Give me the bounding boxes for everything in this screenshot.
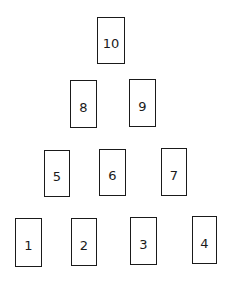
box-label: 9: [138, 100, 146, 113]
box-4: 4: [192, 216, 217, 264]
box-7: 7: [161, 148, 187, 196]
box-label: 10: [103, 37, 120, 50]
box-label: 6: [108, 169, 116, 182]
box-6: 6: [99, 149, 126, 196]
box-3: 3: [130, 217, 157, 265]
box-label: 7: [170, 169, 178, 182]
box-1: 1: [15, 218, 42, 267]
box-label: 8: [79, 101, 87, 114]
box-2: 2: [71, 218, 97, 266]
box-label: 3: [139, 238, 147, 251]
box-8: 8: [70, 80, 97, 128]
box-9: 9: [129, 79, 156, 127]
box-label: 5: [53, 170, 61, 183]
box-5: 5: [44, 150, 70, 197]
box-label: 1: [24, 239, 32, 252]
box-label: 4: [200, 237, 208, 250]
box-label: 2: [80, 239, 88, 252]
box-10: 10: [97, 17, 125, 64]
